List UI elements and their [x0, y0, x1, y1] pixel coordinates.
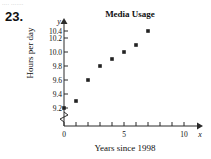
data-point: [62, 106, 66, 110]
x-tick-label-5: 5: [122, 130, 126, 139]
y-tick-label-10-4: 10.4: [49, 27, 62, 36]
y-tick-label-9-6: 9.6: [53, 76, 63, 85]
data-point: [146, 29, 150, 33]
y-tick-label-9-2: 9.2: [53, 104, 63, 113]
scatter-plot: 0 5 10 x 9.2 9.4 9.6 9.8 10.0 10.2 10.4 …: [0, 0, 211, 159]
data-point-series: [62, 29, 150, 110]
x-axis-ticks: [64, 122, 184, 126]
x-axis-variable: x: [197, 130, 202, 139]
x-tick-label-0: 0: [62, 130, 66, 139]
data-point: [134, 43, 138, 47]
data-point: [74, 99, 78, 103]
data-point: [122, 50, 126, 54]
x-axis-arrow-icon: [197, 123, 203, 130]
data-point: [98, 64, 102, 68]
x-axis-tick-labels: 0 5 10 x: [62, 130, 202, 139]
axes-group: [60, 18, 203, 130]
y-axis-tick-labels: 9.2 9.4 9.6 9.8 10.0 10.2 10.4 y: [49, 17, 62, 113]
y-tick-label-10-0: 10.0: [49, 48, 62, 57]
data-point: [86, 78, 90, 82]
textbook-exercise-figure: .... ....... 23. Media Usage Hours per d…: [0, 0, 211, 159]
y-axis-variable: y: [56, 17, 61, 26]
y-axis-arrow-icon: [61, 18, 68, 24]
y-axis-ticks: [64, 31, 68, 108]
x-tick-label-10: 10: [180, 130, 188, 139]
y-tick-label-9-4: 9.4: [53, 90, 63, 99]
data-point: [110, 57, 114, 61]
y-tick-label-9-8: 9.8: [53, 62, 63, 71]
